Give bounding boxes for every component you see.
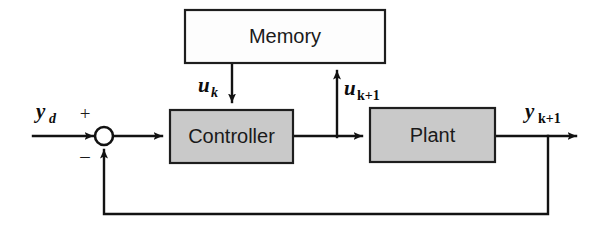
signal-label-output: y k+1 xyxy=(522,99,561,126)
signal-memory-out-base: u xyxy=(344,76,356,100)
signal-memory-in-subscript: k xyxy=(211,85,218,100)
signal-memory-out-subscript: k+1 xyxy=(357,88,380,103)
plus-sign-label: + xyxy=(80,103,91,124)
block-diagram-canvas: Memory Controller Plant + – y d u k u k+… xyxy=(0,0,608,232)
signal-output-base: y xyxy=(522,99,535,123)
signal-reference-subscript: d xyxy=(49,111,57,126)
minus-sign-label: – xyxy=(79,145,90,166)
block-controller-label: Controller xyxy=(188,125,275,147)
signal-label-memory-in: u k xyxy=(198,73,218,100)
block-plant-label: Plant xyxy=(410,124,456,146)
signal-memory-in-base: u xyxy=(198,73,210,97)
signal-reference-base: y xyxy=(33,99,46,123)
signal-label-memory-out: u k+1 xyxy=(344,76,380,103)
block-memory-label: Memory xyxy=(249,25,321,47)
summing-junction[interactable] xyxy=(95,127,113,145)
signal-label-reference: y d xyxy=(33,99,57,126)
signal-output-subscript: k+1 xyxy=(538,111,561,126)
block-diagram-svg: Memory Controller Plant + – y d u k u k+… xyxy=(0,0,608,232)
